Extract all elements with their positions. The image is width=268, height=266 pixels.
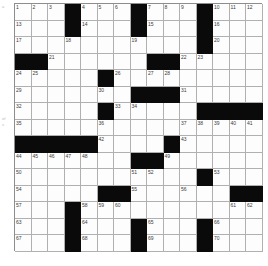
letter-cell[interactable]: 32 [15, 103, 32, 120]
letter-cell[interactable]: 23 [197, 54, 214, 71]
letter-cell[interactable]: 54 [15, 186, 32, 203]
letter-cell[interactable]: 42 [98, 136, 115, 153]
letter-cell[interactable] [81, 54, 98, 71]
letter-cell[interactable] [246, 70, 263, 87]
letter-cell[interactable] [114, 87, 131, 104]
letter-cell[interactable] [48, 87, 65, 104]
letter-cell[interactable] [114, 235, 131, 252]
letter-cell[interactable]: 19 [131, 37, 148, 54]
letter-cell[interactable] [32, 219, 49, 236]
letter-cell[interactable]: 5 [98, 4, 115, 21]
letter-cell[interactable]: 28 [164, 70, 181, 87]
letter-cell[interactable] [81, 186, 98, 203]
letter-cell[interactable] [81, 103, 98, 120]
letter-cell[interactable]: 68 [81, 235, 98, 252]
letter-cell[interactable]: 11 [230, 4, 247, 21]
letter-cell[interactable] [48, 21, 65, 38]
letter-cell[interactable] [131, 54, 148, 71]
letter-cell[interactable] [197, 202, 214, 219]
letter-cell[interactable] [180, 202, 197, 219]
letter-cell[interactable] [230, 21, 247, 38]
letter-cell[interactable] [98, 153, 115, 170]
letter-cell[interactable]: 26 [114, 70, 131, 87]
letter-cell[interactable] [65, 120, 82, 137]
letter-cell[interactable] [213, 186, 230, 203]
letter-cell[interactable]: 8 [164, 4, 181, 21]
letter-cell[interactable] [114, 153, 131, 170]
letter-cell[interactable]: 56 [180, 186, 197, 203]
letter-cell[interactable] [114, 136, 131, 153]
letter-cell[interactable] [65, 54, 82, 71]
letter-cell[interactable] [81, 120, 98, 137]
letter-cell[interactable] [246, 235, 263, 252]
letter-cell[interactable] [164, 186, 181, 203]
letter-cell[interactable] [65, 87, 82, 104]
letter-cell[interactable] [246, 87, 263, 104]
letter-cell[interactable] [65, 186, 82, 203]
letter-cell[interactable] [48, 202, 65, 219]
letter-cell[interactable]: 2 [32, 4, 49, 21]
letter-cell[interactable]: 1 [15, 4, 32, 21]
letter-cell[interactable] [230, 169, 247, 186]
letter-cell[interactable]: 51 [131, 169, 148, 186]
letter-cell[interactable] [48, 219, 65, 236]
letter-cell[interactable] [114, 54, 131, 71]
letter-cell[interactable] [81, 37, 98, 54]
letter-cell[interactable] [114, 219, 131, 236]
letter-cell[interactable]: 30 [98, 87, 115, 104]
letter-cell[interactable]: 27 [147, 70, 164, 87]
letter-cell[interactable] [98, 54, 115, 71]
letter-cell[interactable] [230, 70, 247, 87]
letter-cell[interactable] [213, 153, 230, 170]
letter-cell[interactable] [98, 169, 115, 186]
letter-cell[interactable] [114, 37, 131, 54]
letter-cell[interactable] [197, 87, 214, 104]
letter-cell[interactable] [114, 21, 131, 38]
letter-cell[interactable] [164, 219, 181, 236]
letter-cell[interactable]: 21 [48, 54, 65, 71]
letter-cell[interactable] [213, 202, 230, 219]
letter-cell[interactable] [131, 120, 148, 137]
letter-cell[interactable]: 69 [147, 235, 164, 252]
letter-cell[interactable]: 41 [246, 120, 263, 137]
letter-cell[interactable] [230, 219, 247, 236]
letter-cell[interactable]: 46 [48, 153, 65, 170]
letter-cell[interactable] [98, 37, 115, 54]
letter-cell[interactable] [32, 202, 49, 219]
letter-cell[interactable] [32, 120, 49, 137]
letter-cell[interactable] [48, 70, 65, 87]
letter-cell[interactable] [147, 202, 164, 219]
letter-cell[interactable]: 14 [81, 21, 98, 38]
letter-cell[interactable] [164, 120, 181, 137]
letter-cell[interactable] [246, 219, 263, 236]
letter-cell[interactable]: 40 [230, 120, 247, 137]
letter-cell[interactable] [81, 87, 98, 104]
letter-cell[interactable]: 22 [180, 54, 197, 71]
letter-cell[interactable]: 65 [147, 219, 164, 236]
letter-cell[interactable]: 29 [15, 87, 32, 104]
letter-cell[interactable]: 15 [147, 21, 164, 38]
letter-cell[interactable] [246, 21, 263, 38]
letter-cell[interactable] [246, 54, 263, 71]
letter-cell[interactable] [197, 136, 214, 153]
letter-cell[interactable] [180, 169, 197, 186]
letter-cell[interactable] [164, 21, 181, 38]
letter-cell[interactable] [147, 37, 164, 54]
letter-cell[interactable]: 45 [32, 153, 49, 170]
letter-cell[interactable]: 16 [213, 21, 230, 38]
letter-cell[interactable]: 18 [65, 37, 82, 54]
letter-cell[interactable]: 25 [32, 70, 49, 87]
letter-cell[interactable] [48, 103, 65, 120]
letter-cell[interactable]: 58 [81, 202, 98, 219]
letter-cell[interactable] [32, 186, 49, 203]
letter-cell[interactable]: 66 [213, 219, 230, 236]
letter-cell[interactable]: 43 [180, 136, 197, 153]
letter-cell[interactable]: 59 [98, 202, 115, 219]
letter-cell[interactable] [147, 136, 164, 153]
letter-cell[interactable] [32, 37, 49, 54]
letter-cell[interactable] [180, 103, 197, 120]
letter-cell[interactable] [230, 87, 247, 104]
letter-cell[interactable]: 53 [213, 169, 230, 186]
letter-cell[interactable]: 13 [15, 21, 32, 38]
letter-cell[interactable]: 35 [15, 120, 32, 137]
